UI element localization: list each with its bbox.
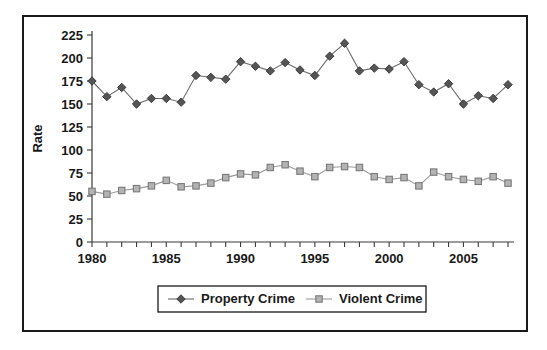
data-point-marker xyxy=(281,58,289,66)
data-point-marker xyxy=(370,64,378,72)
data-point-marker xyxy=(459,100,467,108)
data-point-marker xyxy=(267,164,273,170)
data-point-marker xyxy=(104,191,110,197)
y-axis-tick-label: 0 xyxy=(76,235,83,250)
data-point-marker xyxy=(355,67,363,75)
y-axis-tick-label: 50 xyxy=(69,189,83,204)
y-axis-tick-label: 200 xyxy=(61,51,83,66)
data-point-marker xyxy=(400,57,408,65)
data-point-marker xyxy=(460,176,466,182)
data-point-marker xyxy=(207,73,215,81)
y-axis-tick-label: 175 xyxy=(61,74,83,89)
data-point-marker xyxy=(415,80,423,88)
data-point-marker xyxy=(401,174,407,180)
data-point-marker xyxy=(133,185,139,191)
y-axis-tick-label: 75 xyxy=(69,166,83,181)
x-axis-tick-label: 1995 xyxy=(300,251,329,266)
data-point-marker xyxy=(147,94,155,102)
legend-label-2: Violent Crime xyxy=(339,291,423,306)
data-point-marker xyxy=(193,183,199,189)
data-point-marker xyxy=(119,187,125,193)
data-point-marker xyxy=(208,180,214,186)
data-point-marker xyxy=(386,176,392,182)
data-point-marker xyxy=(162,94,170,102)
data-point-marker xyxy=(237,171,243,177)
chart-figure-frame: 0255075100125150175200225198019851990199… xyxy=(22,15,528,332)
data-point-marker xyxy=(296,66,304,74)
data-point-marker xyxy=(178,184,184,190)
x-axis-tick-label: 1990 xyxy=(226,251,255,266)
data-point-marker xyxy=(297,168,303,174)
data-point-marker xyxy=(163,177,169,183)
series-property-crime xyxy=(88,39,512,108)
x-axis-tick-label: 1980 xyxy=(78,251,107,266)
data-point-marker xyxy=(266,67,274,75)
data-point-marker xyxy=(444,80,452,88)
y-axis-tick-label: 150 xyxy=(61,97,83,112)
data-point-marker xyxy=(312,173,318,179)
data-point-marker xyxy=(474,92,482,100)
y-axis-tick-label: 100 xyxy=(61,143,83,158)
data-point-marker xyxy=(505,180,511,186)
data-point-marker xyxy=(223,174,229,180)
x-axis-tick-label: 1985 xyxy=(152,251,181,266)
data-point-marker xyxy=(148,183,154,189)
data-point-marker xyxy=(490,173,496,179)
chart-legend: Property CrimeViolent Crime xyxy=(158,286,426,312)
line-chart: 0255075100125150175200225198019851990199… xyxy=(24,17,526,330)
y-axis-tick-label: 25 xyxy=(69,212,83,227)
data-point-marker xyxy=(316,296,322,302)
x-axis-tick-label: 2000 xyxy=(375,251,404,266)
y-axis-title: Rate xyxy=(30,124,45,152)
data-point-marker xyxy=(89,188,95,194)
data-point-marker xyxy=(327,164,333,170)
data-point-marker xyxy=(192,71,200,79)
data-point-marker xyxy=(416,183,422,189)
y-axis-tick-label: 225 xyxy=(61,28,83,43)
data-point-marker xyxy=(282,162,288,168)
chart-plot-container: 0255075100125150175200225198019851990199… xyxy=(24,17,526,330)
data-point-marker xyxy=(356,164,362,170)
data-point-marker xyxy=(177,98,185,106)
data-point-marker xyxy=(385,65,393,73)
series-violent-crime xyxy=(89,162,511,198)
y-axis-tick-label: 125 xyxy=(61,120,83,135)
data-point-marker xyxy=(371,173,377,179)
x-axis-tick-label: 2005 xyxy=(449,251,478,266)
data-point-marker xyxy=(430,88,438,96)
data-point-marker xyxy=(341,163,347,169)
data-point-marker xyxy=(445,173,451,179)
data-point-marker xyxy=(431,169,437,175)
legend-label-1: Property Crime xyxy=(201,291,295,306)
data-point-marker xyxy=(251,62,259,70)
data-point-marker xyxy=(252,172,258,178)
data-point-marker xyxy=(475,178,481,184)
